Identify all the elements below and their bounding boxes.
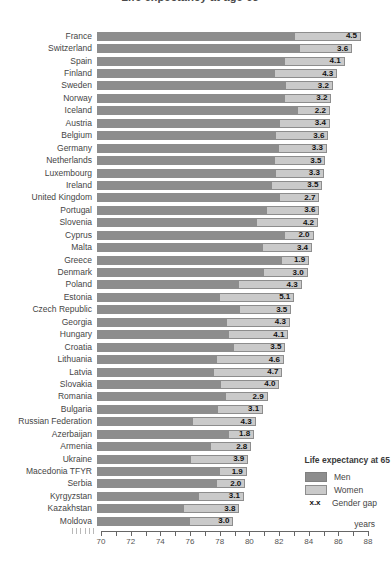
women-bar: 5.1 [219, 293, 295, 302]
men-bar [97, 392, 225, 401]
gender-gap-value: 2.8 [236, 443, 247, 451]
country-label: Georgia [0, 318, 97, 327]
bar-track: 4.3 [97, 69, 364, 78]
x-axis-tick [264, 532, 265, 536]
women-bar: 1.9 [219, 467, 247, 476]
bar-track: 1.9 [97, 256, 364, 265]
x-axis-tick [338, 532, 339, 536]
country-row: Georgia4.3 [0, 316, 392, 328]
country-row: Portugal3.6 [0, 204, 392, 216]
gender-gap-value: 4.3 [322, 70, 333, 78]
country-row: Sweden3.2 [0, 80, 392, 92]
bar-track: 2.8 [97, 442, 364, 451]
country-row: Luxembourg3.3 [0, 167, 392, 179]
bar-track: 3.6 [97, 131, 364, 140]
bar-track: 2.9 [97, 392, 364, 401]
country-label: Azerbaijan [0, 430, 97, 439]
x-axis-tick [175, 532, 176, 536]
country-label: Estonia [0, 293, 97, 302]
bar-track: 4.7 [97, 368, 364, 377]
women-bar: 3.6 [299, 44, 352, 53]
gender-gap-value: 3.3 [312, 144, 323, 152]
men-bar [97, 305, 239, 314]
men-bar [97, 169, 275, 178]
country-row: Cyprus2.0 [0, 229, 392, 241]
country-label: Denmark [0, 268, 97, 277]
country-row: France4.5 [0, 30, 392, 42]
legend-item-gap: x.x Gender gap [285, 496, 390, 509]
gender-gap-value: 4.1 [330, 57, 341, 65]
x-axis-tick [205, 532, 206, 536]
women-bar: 4.7 [213, 368, 283, 377]
country-label: Netherlands [0, 156, 97, 165]
country-row: Azerbaijan1.8 [0, 428, 392, 440]
gender-gap-value: 3.4 [315, 119, 326, 127]
country-row: Slovakia4.0 [0, 378, 392, 390]
country-label: Moldova [0, 517, 97, 526]
men-bar [97, 368, 213, 377]
gender-gap-value: 4.6 [269, 356, 280, 364]
women-bar: 3.5 [233, 343, 285, 352]
gender-gap-value: 4.3 [287, 281, 298, 289]
country-row: Iceland2.2 [0, 105, 392, 117]
gender-gap-value: 3.5 [270, 343, 281, 351]
gender-gap-value: 3.4 [297, 244, 308, 252]
men-bar [97, 380, 220, 389]
x-axis-tick-label: 86 [328, 537, 348, 546]
country-label: Cyprus [0, 231, 97, 240]
x-axis-tick [131, 532, 132, 536]
country-label: Slovakia [0, 380, 97, 389]
country-label: Ireland [0, 181, 97, 190]
women-bar: 2.0 [216, 479, 246, 488]
gender-gap-value: 3.1 [248, 405, 259, 413]
bar-track: 4.2 [97, 218, 364, 227]
country-row: Poland4.3 [0, 279, 392, 291]
country-row: Germany3.3 [0, 142, 392, 154]
women-bar: 4.1 [284, 57, 345, 66]
country-label: Latvia [0, 368, 97, 377]
bar-track: 4.6 [97, 355, 364, 364]
country-label: Finland [0, 69, 97, 78]
country-row: Malta3.4 [0, 241, 392, 253]
gender-gap-value: 2.9 [252, 393, 263, 401]
women-bar: 3.5 [271, 181, 323, 190]
x-axis-tick [116, 532, 117, 536]
country-row: Bulgaria3.1 [0, 403, 392, 415]
x-axis-tick [249, 532, 250, 536]
men-color-swatch [305, 472, 327, 482]
country-label: Lithuania [0, 355, 97, 364]
gender-gap-value: 3.9 [233, 455, 244, 463]
bar-track: 4.3 [97, 417, 364, 426]
bar-track: 1.8 [97, 430, 364, 439]
legend: Life expectancy at 65 Men Women x.x Gend… [285, 455, 390, 509]
country-row: Lithuania4.6 [0, 353, 392, 365]
x-axis-tick [160, 532, 161, 536]
men-bar [97, 343, 233, 352]
country-label: Bulgaria [0, 405, 97, 414]
women-bar: 2.7 [279, 193, 319, 202]
women-bar: 3.0 [189, 517, 234, 526]
country-label: Kyrgyzstan [0, 492, 97, 501]
x-axis-tick [101, 532, 102, 536]
bar-track: 3.3 [97, 169, 364, 178]
men-bar [97, 44, 299, 53]
women-bar: 3.6 [266, 206, 319, 215]
women-color-swatch [305, 485, 327, 495]
country-label: Switzerland [0, 44, 97, 53]
country-label: Armenia [0, 442, 97, 451]
country-label: Portugal [0, 206, 97, 215]
x-axis-tick [190, 532, 191, 536]
bar-track: 4.3 [97, 280, 364, 289]
country-label: Kazakhstan [0, 504, 97, 513]
gender-gap-value: 5.1 [279, 293, 290, 301]
gender-gap-value: 1.9 [232, 468, 243, 476]
gender-gap-value: 4.1 [273, 331, 284, 339]
men-bar [97, 181, 271, 190]
men-bar [97, 467, 219, 476]
men-bar [97, 517, 189, 526]
bar-track: 5.1 [97, 293, 364, 302]
men-bar [97, 193, 279, 202]
women-bar: 3.6 [275, 131, 328, 140]
country-label: Norway [0, 94, 97, 103]
bar-track: 2.2 [97, 106, 364, 115]
